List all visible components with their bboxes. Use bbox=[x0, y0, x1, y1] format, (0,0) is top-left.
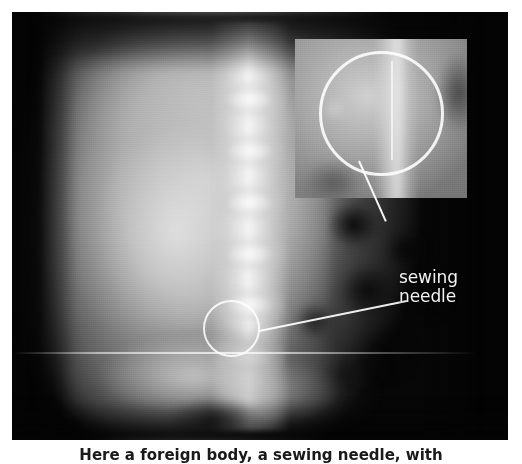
scan-artefact-line bbox=[12, 352, 508, 354]
vertebra-body bbox=[215, 80, 284, 119]
magnified-detail-panel bbox=[295, 39, 467, 198]
vertebra-body bbox=[215, 132, 284, 171]
figure-caption: Here a foreign body, a sewing needle, wi… bbox=[0, 446, 522, 464]
region-of-interest-circle bbox=[203, 300, 260, 357]
annotation-label: sewing needle bbox=[399, 268, 458, 306]
radiograph-film: sewing needle bbox=[12, 12, 508, 440]
inset-highlight-circle bbox=[319, 51, 444, 176]
vertebra-body bbox=[215, 183, 284, 222]
vertebra-body bbox=[215, 235, 284, 274]
film-bottom-margin bbox=[12, 401, 508, 440]
annotation-line-2: needle bbox=[399, 287, 458, 306]
film-left-margin bbox=[12, 12, 76, 440]
annotation-line-1: sewing bbox=[399, 268, 458, 287]
